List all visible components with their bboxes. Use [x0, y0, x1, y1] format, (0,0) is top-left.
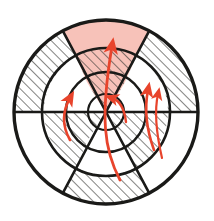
sector-disc-diagram: [0, 0, 214, 221]
figure-root: Hatched concentric sector disc with radi…: [0, 0, 214, 221]
